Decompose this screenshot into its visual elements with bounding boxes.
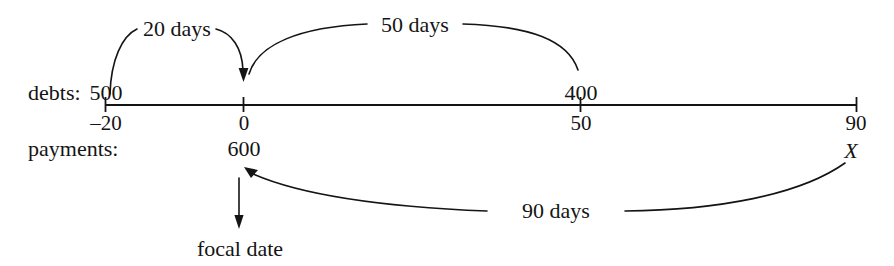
arrow-label-90-days: 90 days — [522, 200, 590, 222]
arrowhead-20-days — [239, 68, 249, 82]
debt-amount-400: 400 — [565, 82, 598, 104]
arc-90-days-left — [249, 172, 487, 211]
axis-tick-label-0: 0 — [239, 113, 250, 134]
payments-row-label: payments: — [28, 138, 118, 160]
arrow-label-20-days: 20 days — [143, 18, 211, 40]
debt-amount-500: 500 — [90, 82, 123, 104]
payment-amount-600: 600 — [228, 138, 261, 160]
axis-tick-label-50: 50 — [571, 113, 592, 134]
arrow-label-50-days: 50 days — [381, 14, 449, 36]
arc-90-days-right — [625, 163, 845, 211]
arc-50-days-left — [249, 24, 367, 74]
axis-tick-label-90: 90 — [846, 113, 867, 134]
focal-date-label: focal date — [197, 238, 283, 260]
debts-row-label: debts: — [28, 82, 81, 104]
timeline-canvas — [0, 0, 894, 266]
payment-amount-x: X — [844, 140, 857, 162]
arc-50-days-right — [463, 24, 578, 70]
axis-tick-label-minus-20: –20 — [90, 113, 122, 134]
arc-20-days-right — [216, 29, 243, 70]
arrowhead-90-days — [244, 167, 258, 178]
focal-date-arrowhead — [234, 215, 243, 229]
focal-date-timeline-diagram: debts: 500 400 –20 0 50 90 payments: 600… — [0, 0, 894, 266]
